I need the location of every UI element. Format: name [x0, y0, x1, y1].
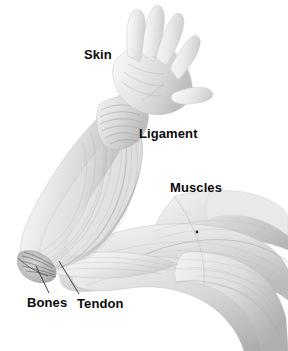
- anatomy-figure: Skin Ligament Muscles Bones Tendon: [0, 0, 288, 351]
- label-bones: Bones: [27, 296, 67, 309]
- muscle-marker-dot: [196, 231, 199, 234]
- label-skin: Skin: [84, 48, 112, 61]
- label-ligament: Ligament: [139, 127, 198, 140]
- label-muscles: Muscles: [170, 181, 222, 194]
- label-tendon: Tendon: [77, 297, 124, 310]
